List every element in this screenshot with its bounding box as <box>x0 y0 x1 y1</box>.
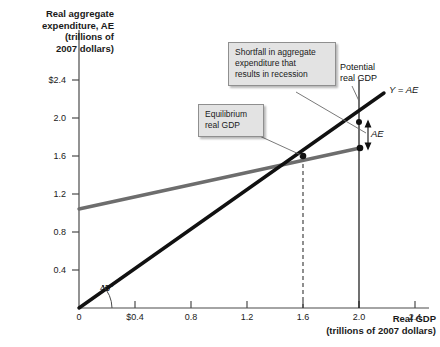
equilibrium-point-marker <box>300 153 307 160</box>
x-tick-label-0-8: 0.8 <box>170 312 212 322</box>
y-tick-label-1-6: 1.6 <box>26 151 66 161</box>
x-tick-label-2-0: 2.0 <box>338 312 380 322</box>
x-axis-ticks <box>135 301 415 308</box>
y-tick-label-2-4: $2.4 <box>26 75 66 85</box>
potential-leader-line <box>352 86 359 101</box>
y-tick-label-2-0: 2.0 <box>26 113 66 123</box>
x-tick-label-0-4: $0.4 <box>114 312 156 322</box>
y-tick-label-1-2: 1.2 <box>26 189 66 199</box>
x-tick-label-1-2: 1.2 <box>226 312 268 322</box>
ae-curve <box>79 148 360 209</box>
shortfall-gap-arrow <box>365 121 370 149</box>
x-tick-label-1-6: 1.6 <box>282 312 324 322</box>
equilibrium-callout: Equilibrium real GDP <box>198 104 264 137</box>
ae-at-potential-point-marker <box>357 145 364 152</box>
potential-gdp-point-marker <box>356 119 362 125</box>
ae-curve-label: AE <box>371 128 384 139</box>
angle-label: 45° <box>100 283 114 293</box>
y-tick-label-0-8: 0.8 <box>26 227 66 237</box>
y-equals-ae-label: Y = AE <box>389 84 418 95</box>
potential-real-gdp-label: Potential real GDP <box>340 62 377 84</box>
y-axis-ticks <box>72 80 79 270</box>
y-tick-label-0-4: 0.4 <box>26 265 66 275</box>
aggregate-expenditure-chart: Real aggregate expenditure, AE (trillion… <box>0 0 440 347</box>
x-tick-label-2-4: 2.4 <box>394 312 436 322</box>
origin-tick-label: 0 <box>58 312 100 322</box>
shortfall-callout: Shortfall in aggregate expenditure that … <box>228 42 336 86</box>
y-axis-title: Real aggregate expenditure, AE (trillion… <box>2 8 114 54</box>
